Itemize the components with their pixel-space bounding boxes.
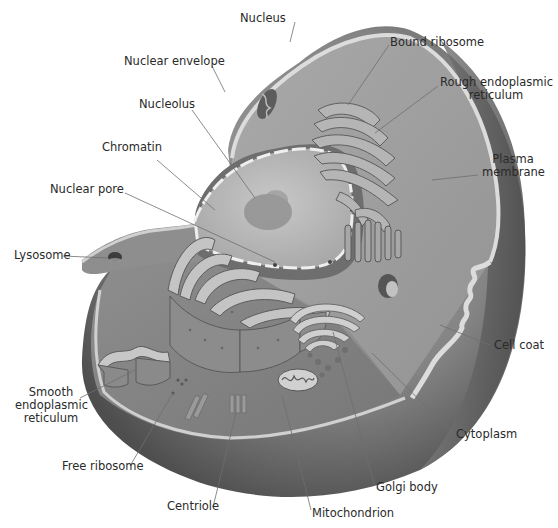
label-plasma-membrane: Plasma membrane	[482, 153, 544, 179]
label-free-ribosome: Free ribosome	[62, 460, 144, 473]
label-mitochondrion: Mitochondrion	[312, 507, 394, 520]
label-bound-ribosome: Bound ribosome	[390, 36, 484, 49]
label-cell-coat: Cell coat	[494, 339, 544, 352]
label-golgi-body: Golgi body	[376, 481, 438, 494]
label-rough-er: Rough endoplasmic reticulum	[440, 76, 552, 102]
label-rough-er-line2: reticulum	[440, 89, 552, 102]
label-smooth-er: Smooth endoplasmic reticulum	[15, 386, 87, 425]
label-chromatin: Chromatin	[102, 141, 162, 154]
label-nuclear-envelope: Nuclear envelope	[124, 55, 225, 68]
label-lysosome: Lysosome	[14, 249, 71, 262]
label-nucleus: Nucleus	[240, 12, 286, 25]
label-plasma-membrane-line2: membrane	[482, 166, 544, 179]
label-smooth-er-line3: reticulum	[15, 412, 87, 425]
label-nucleolus: Nucleolus	[139, 98, 195, 111]
label-cytoplasm: Cytoplasm	[456, 428, 517, 441]
label-centriole: Centriole	[167, 500, 219, 513]
label-nuclear-pore: Nuclear pore	[50, 183, 124, 196]
